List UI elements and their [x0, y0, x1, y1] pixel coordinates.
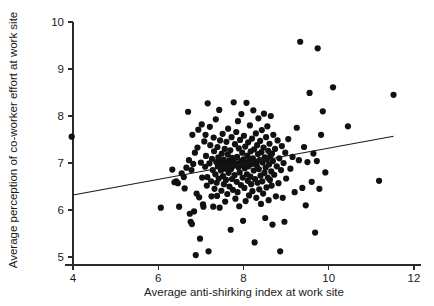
data-point	[318, 132, 324, 138]
x-tick-label: 4	[70, 272, 77, 284]
data-point	[233, 129, 239, 135]
data-point	[269, 221, 275, 227]
data-point	[277, 248, 283, 254]
data-point	[217, 137, 223, 143]
data-point	[278, 167, 284, 173]
data-point	[322, 169, 328, 175]
data-point	[251, 239, 257, 245]
data-point	[390, 92, 396, 98]
data-point	[266, 197, 272, 203]
y-axis-ticks: 5678910	[51, 16, 73, 263]
data-point	[255, 115, 261, 121]
data-point	[225, 126, 231, 132]
data-point	[314, 158, 320, 164]
data-point	[201, 138, 207, 144]
data-point	[309, 179, 315, 185]
data-point	[222, 146, 228, 152]
data-point	[210, 204, 216, 210]
data-point	[195, 127, 201, 133]
data-point	[301, 144, 307, 150]
data-point	[176, 204, 182, 210]
data-point	[260, 190, 266, 196]
data-point	[189, 132, 195, 138]
data-point	[257, 138, 263, 144]
data-point	[270, 132, 276, 138]
data-point	[202, 132, 208, 138]
data-point	[218, 188, 224, 194]
data-point	[294, 125, 300, 131]
data-point	[236, 203, 242, 209]
data-point	[287, 166, 293, 172]
data-point	[223, 177, 229, 183]
data-point	[190, 161, 196, 167]
data-point	[281, 219, 287, 225]
data-point	[207, 124, 213, 130]
data-point	[275, 137, 281, 143]
data-point	[188, 167, 194, 173]
data-point	[185, 109, 191, 115]
data-point	[267, 177, 273, 183]
plot-canvas: 5678910 4681012 Average anti-shirking in…	[0, 0, 434, 306]
data-point	[275, 180, 281, 186]
data-point	[205, 100, 211, 106]
data-point	[330, 84, 336, 90]
data-point	[196, 194, 202, 200]
data-point	[259, 178, 265, 184]
data-point	[194, 144, 200, 150]
data-point	[158, 205, 164, 211]
data-point	[256, 166, 262, 172]
data-point	[228, 227, 234, 233]
data-point	[249, 135, 255, 141]
data-point	[283, 175, 289, 181]
x-axis-title: Average anti-shirking index at work site	[144, 286, 344, 298]
data-point	[200, 204, 206, 210]
data-point	[292, 189, 298, 195]
data-point	[282, 150, 288, 156]
data-point	[259, 127, 265, 133]
data-point	[208, 178, 214, 184]
data-point	[247, 122, 253, 128]
data-point	[243, 198, 249, 204]
data-point	[214, 144, 220, 150]
data-point	[231, 99, 237, 105]
data-point	[279, 143, 285, 149]
data-point	[237, 169, 243, 175]
data-point	[276, 155, 282, 161]
data-point	[193, 252, 199, 258]
data-point	[261, 111, 267, 117]
data-point	[208, 193, 214, 199]
data-point	[191, 208, 197, 214]
axis-lines	[65, 22, 421, 265]
data-points	[69, 39, 397, 259]
data-point	[249, 188, 255, 194]
data-point	[228, 134, 234, 140]
data-point	[316, 186, 322, 192]
data-point	[207, 142, 213, 148]
x-tick-label: 12	[408, 272, 421, 284]
data-point	[248, 181, 254, 187]
data-point	[303, 202, 309, 208]
data-point	[211, 186, 217, 192]
data-point	[269, 182, 275, 188]
data-point	[241, 185, 247, 191]
data-point	[238, 111, 244, 117]
x-tick-label: 10	[322, 272, 335, 284]
data-point	[306, 90, 312, 96]
data-point	[232, 196, 238, 202]
data-point	[264, 123, 270, 129]
data-point	[241, 133, 247, 139]
data-point	[268, 113, 274, 119]
data-point	[240, 218, 246, 224]
data-point	[320, 108, 326, 114]
data-point	[304, 159, 310, 165]
data-point	[296, 157, 302, 163]
data-point	[227, 147, 233, 153]
data-point	[271, 172, 277, 178]
x-tick-label: 8	[240, 272, 246, 284]
x-tick-label: 6	[155, 272, 161, 284]
data-point	[315, 45, 321, 51]
data-point	[376, 178, 382, 184]
y-tick-label: 10	[51, 16, 64, 28]
data-point	[258, 201, 264, 207]
data-point	[199, 121, 205, 127]
